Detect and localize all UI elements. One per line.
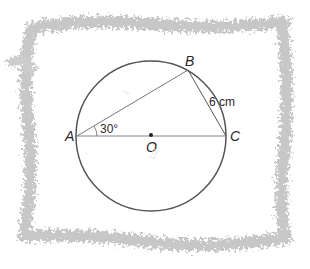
chord-ab — [77, 70, 188, 136]
side-length-label: 6 cm — [209, 95, 235, 109]
geometry-figure — [0, 0, 310, 269]
label-point-b: B — [185, 53, 194, 69]
label-point-a: A — [65, 128, 74, 144]
center-point-o — [149, 133, 153, 137]
angle-arc-a — [94, 126, 97, 136]
angle-label: 30° — [100, 122, 118, 136]
label-point-c: C — [230, 128, 240, 144]
diagram-canvas: A B C O 30° 6 cm 1 1/2 — [0, 0, 310, 269]
